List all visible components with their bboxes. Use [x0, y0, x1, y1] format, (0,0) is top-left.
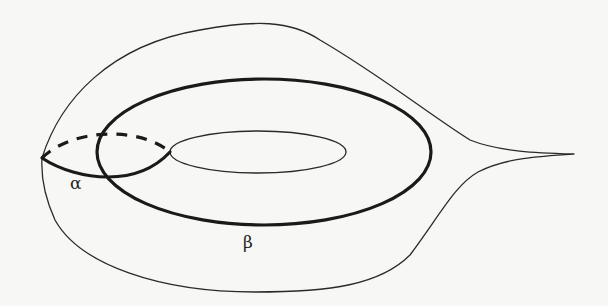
beta-curve	[97, 79, 431, 225]
beta-label: β	[243, 234, 253, 251]
alpha-curve-back	[42, 134, 170, 158]
surface-outline	[42, 23, 574, 292]
torus-diagram	[0, 0, 608, 306]
alpha-label: α	[70, 175, 81, 192]
torus-hole	[170, 131, 346, 173]
